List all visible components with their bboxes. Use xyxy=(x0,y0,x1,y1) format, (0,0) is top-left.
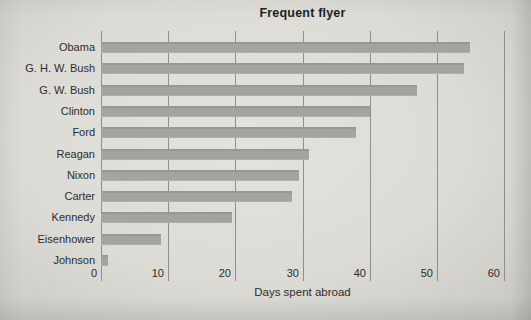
gridline-60 xyxy=(504,31,505,281)
category-label-clinton: Clinton xyxy=(0,106,95,117)
bar-ford xyxy=(101,127,356,138)
x-tick-label-50: 50 xyxy=(403,267,433,279)
category-label-ford: Ford xyxy=(0,127,95,138)
chart-page: Frequent flyer ObamaG. H. W. BushG. W. B… xyxy=(0,0,531,320)
category-label-g-w-bush: G. W. Bush xyxy=(0,85,95,96)
category-label-eisenhower: Eisenhower xyxy=(0,234,95,245)
category-label-carter: Carter xyxy=(0,191,95,202)
bar-eisenhower xyxy=(101,234,161,245)
bar-obama xyxy=(101,42,470,53)
x-tick-label-20: 20 xyxy=(201,267,231,279)
category-label-kennedy: Kennedy xyxy=(0,212,95,223)
x-axis-title: Days spent abroad xyxy=(101,286,504,298)
bar-carter xyxy=(101,191,292,202)
bar-g-w-bush xyxy=(101,85,417,96)
x-tick-label-60: 60 xyxy=(470,267,500,279)
x-tick-label-10: 10 xyxy=(134,267,164,279)
bar-nixon xyxy=(101,170,299,181)
category-label-johnson: Johnson xyxy=(0,255,95,266)
x-tick-label-40: 40 xyxy=(336,267,366,279)
category-label-g-h-w-bush: G. H. W. Bush xyxy=(0,63,95,74)
x-tick-label-0: 0 xyxy=(67,267,97,279)
category-label-obama: Obama xyxy=(0,42,95,53)
bar-kennedy xyxy=(101,212,232,223)
bar-clinton xyxy=(101,106,370,117)
chart-title: Frequent flyer xyxy=(101,6,504,20)
bar-reagan xyxy=(101,149,309,160)
bar-g-h-w-bush xyxy=(101,63,464,74)
x-tick-label-30: 30 xyxy=(269,267,299,279)
category-label-reagan: Reagan xyxy=(0,149,95,160)
bar-johnson xyxy=(101,255,108,266)
category-label-nixon: Nixon xyxy=(0,170,95,181)
plot-area xyxy=(101,31,504,278)
